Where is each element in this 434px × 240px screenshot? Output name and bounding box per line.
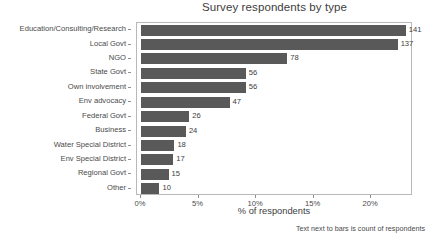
category-tick-mark	[128, 188, 131, 189]
category-tick-mark	[128, 87, 131, 88]
bar-value-label: 17	[176, 153, 184, 165]
bar-value-label: 137	[401, 38, 414, 50]
bar	[141, 111, 189, 122]
category-tick-label: NGO	[109, 53, 126, 63]
bar	[141, 82, 246, 93]
category-tick-label: Env Special District	[61, 154, 126, 164]
category-tick-label: Local Govt	[90, 39, 126, 49]
category-tick-label: Own involvement	[68, 82, 126, 92]
bar	[141, 140, 174, 151]
chart-title: Survey respondents by type	[136, 1, 413, 13]
category-tick-label: Business	[95, 125, 126, 135]
category-tick-mark	[128, 116, 131, 117]
bar	[141, 68, 246, 79]
category-tick-mark	[128, 159, 131, 160]
bar	[141, 154, 173, 165]
value-tick-mark	[198, 195, 199, 198]
category-tick-label: Other	[107, 183, 126, 193]
value-tick-mark	[313, 195, 314, 198]
bar	[141, 53, 287, 64]
bar-value-label: 47	[233, 96, 241, 108]
category-tick-mark	[128, 145, 131, 146]
bar-row: 24	[137, 124, 411, 138]
category-tick-label: Regional Govt	[78, 168, 126, 178]
bar	[141, 25, 406, 36]
bar-value-label: 26	[192, 110, 200, 122]
bar	[141, 97, 230, 108]
bar-value-label: 56	[249, 67, 257, 79]
category-tick-label: Education/Consulting/Research	[20, 24, 126, 34]
value-tick-mark	[255, 195, 256, 198]
category-tick-label: Water Special District	[54, 140, 126, 150]
bar-row: 137	[137, 37, 411, 51]
category-tick-label: Federal Govt	[82, 111, 126, 121]
survey-respondents-bar-chart: Survey respondents by type Education/Con…	[0, 0, 434, 240]
category-tick-mark	[128, 72, 131, 73]
category-axis: Education/Consulting/ResearchLocal GovtN…	[0, 22, 131, 195]
bar-row: 78	[137, 52, 411, 66]
value-tick-mark	[370, 195, 371, 198]
bar-value-label: 141	[409, 24, 422, 36]
bar-value-label: 24	[189, 125, 197, 137]
category-tick-mark	[128, 173, 131, 174]
bars-layer: 14113778565647262418171510	[137, 23, 411, 194]
bar-row: 10	[137, 182, 411, 196]
bar-row: 141	[137, 23, 411, 37]
plot-area: 14113778565647262418171510	[136, 22, 412, 195]
bar-value-label: 15	[172, 168, 180, 180]
bar	[141, 183, 159, 194]
x-axis-title: % of respondents	[136, 206, 412, 216]
bar-row: 18	[137, 138, 411, 152]
bar-row: 15	[137, 167, 411, 181]
bar-value-label: 10	[162, 182, 170, 194]
bar-row: 56	[137, 66, 411, 80]
value-tick-mark	[140, 195, 141, 198]
bar-row: 26	[137, 110, 411, 124]
category-tick-mark	[128, 29, 131, 30]
bar-value-label: 18	[177, 139, 185, 151]
bar	[141, 126, 186, 137]
chart-footnote: Text next to bars is count of respondent…	[296, 224, 425, 233]
bar	[141, 169, 169, 180]
bar-value-label: 78	[290, 52, 298, 64]
bar	[141, 39, 398, 50]
category-tick-label: State Govt	[90, 67, 126, 77]
category-tick-mark	[128, 130, 131, 131]
category-tick-label: Env advocacy	[79, 96, 126, 106]
bar-row: 47	[137, 95, 411, 109]
bar-value-label: 56	[249, 81, 257, 93]
category-tick-mark	[128, 101, 131, 102]
category-tick-mark	[128, 58, 131, 59]
category-tick-mark	[128, 44, 131, 45]
bar-row: 56	[137, 81, 411, 95]
bar-row: 17	[137, 153, 411, 167]
